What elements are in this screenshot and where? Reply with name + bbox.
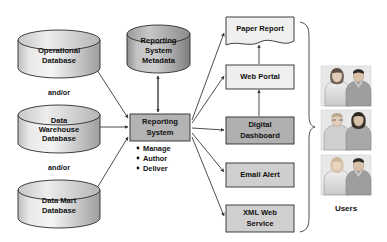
users-photo-3 (321, 155, 371, 195)
users-photo-2 (321, 110, 371, 150)
reporting-system[interactable]: Reporting System (130, 114, 190, 141)
paper-report-label: Paper Report (236, 24, 284, 33)
reporting-system-metadata-label-line-2: System (145, 46, 172, 55)
data-mart-database[interactable]: Data Mart Database (18, 180, 100, 228)
and-or-connector-1: and/or (48, 88, 70, 97)
edge-reporting-to-xml-web-service (192, 137, 224, 216)
capability-deliver: Deliver (143, 164, 168, 173)
data-mart-database-label-line-1: Data Mart (42, 196, 77, 205)
edge-mart-to-reporting (97, 137, 128, 188)
web-portal[interactable]: Web Portal (226, 65, 294, 89)
xml-web-service[interactable]: XML Web Service (226, 205, 294, 232)
users-group[interactable]: Users (321, 66, 371, 213)
reporting-system-label-line-2: System (146, 128, 173, 137)
reporting-system-metadata-label-line-3: Metadata (142, 56, 176, 65)
data-warehouse-database-label-line-1: Data (51, 116, 68, 125)
reporting-system-label-line-1: Reporting (142, 117, 178, 126)
data-warehouse-database-label-line-2: Warehouse (39, 125, 80, 134)
bullet-dot-manage (137, 147, 140, 150)
and-or-connector-2: and/or (48, 163, 70, 172)
output-channels: Paper Report Web Portal Digital Dashboar… (226, 17, 294, 232)
digital-dashboard[interactable]: Digital Dashboard (226, 117, 294, 144)
data-warehouse-database-label-line-3: Database (42, 134, 76, 143)
xml-web-service-label-line-2: Service (246, 219, 273, 228)
operational-database[interactable]: Operational Database (18, 30, 100, 78)
edge-reporting-to-web-portal (192, 76, 224, 123)
digital-dashboard-label-line-1: Digital (248, 120, 271, 129)
users-label: Users (335, 204, 358, 213)
reporting-system-metadata-label-line-1: Reporting (141, 36, 177, 45)
edge-reporting-to-email-alert (192, 133, 224, 172)
data-warehouse-database[interactable]: Data Warehouse Database (18, 105, 100, 153)
reporting-system-capability-list: Manage Author Deliver (137, 144, 171, 173)
users-photo-1 (321, 66, 371, 106)
bullet-dot-deliver (137, 167, 140, 170)
capability-manage: Manage (143, 144, 171, 153)
capability-author: Author (143, 154, 167, 163)
users-grouping-brace (300, 22, 315, 232)
edge-operational-to-reporting (97, 70, 128, 118)
reporting-system-metadata[interactable]: Reporting System Metadata (127, 25, 190, 73)
reporting-system-diagram: Operational Database Data Warehouse Data… (0, 0, 387, 242)
bullet-dot-author (137, 157, 140, 160)
email-alert[interactable]: Email Alert (226, 163, 294, 187)
edge-reporting-to-digital-dashboard (192, 128, 224, 130)
operational-database-label-line-2: Database (42, 56, 76, 65)
operational-database-label-line-1: Operational (38, 46, 80, 55)
edge-reporting-to-paper-report (192, 33, 224, 120)
xml-web-service-label-line-1: XML Web (243, 208, 277, 217)
source-databases: Operational Database Data Warehouse Data… (18, 30, 100, 228)
digital-dashboard-label-line-2: Dashboard (240, 131, 280, 140)
data-mart-database-label-line-2: Database (42, 206, 76, 215)
email-alert-label: Email Alert (240, 170, 280, 179)
paper-report[interactable]: Paper Report (226, 17, 294, 45)
web-portal-label: Web Portal (240, 72, 280, 81)
